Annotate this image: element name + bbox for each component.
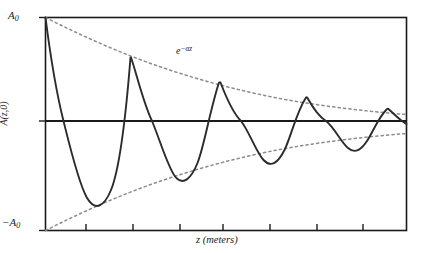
x-axis-ticks [86,224,363,231]
y-axis-min-subscript: 0 [16,221,20,230]
upper-envelope-curve [46,18,407,115]
envelope-annotation: e−αz [176,44,192,56]
plot-frame [46,18,407,231]
y-axis-min-label: −A0 [2,216,20,230]
figure-container: A0 −A0 A(z,0) z (meters) e−αz [0,0,424,253]
x-axis-title: z (meters) [196,234,238,245]
y-axis-min-letter: −A [2,216,16,228]
damped-cosine-curve [46,18,407,206]
y-axis-max-letter: A [8,9,15,21]
lower-envelope-curve [46,134,407,231]
damped-wave-chart-svg [0,0,424,253]
envelope-annotation-exponent: −αz [180,44,192,53]
y-axis-max-label: A0 [8,9,19,23]
y-axis-title: A(z,0) [0,101,9,125]
y-axis-max-subscript: 0 [15,14,19,23]
y-axis-ticks [39,18,46,231]
